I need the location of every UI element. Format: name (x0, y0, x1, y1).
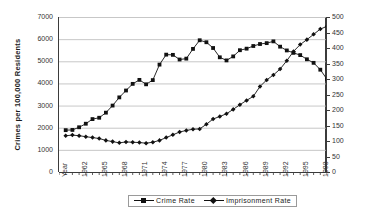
x-axis-tick-label: 1968 (121, 161, 128, 177)
x-axis-tick-label: Year (61, 163, 68, 177)
x-axis-tick-label: 1986 (242, 161, 249, 177)
legend-label-imprisonment-rate: Imprisonment Rate (226, 197, 291, 204)
x-axis-tick-label: 1980 (201, 161, 208, 177)
chart-container: Crimes per 100,000 Residents 70006000500… (0, 0, 383, 219)
legend-label-crime-rate: Crime Rate (156, 197, 195, 204)
x-axis-tick-label: 1995 (302, 161, 309, 177)
right-axis-tick (327, 79, 330, 80)
right-axis-tick (327, 126, 330, 127)
right-axis-tick (327, 95, 330, 96)
right-axis-tick (327, 48, 330, 49)
x-axis-tick-label: 1971 (141, 161, 148, 177)
line-square-marker-icon (134, 197, 154, 204)
x-axis-tick-label: 1992 (282, 161, 289, 177)
right-axis-tick (327, 17, 330, 18)
right-axis-tick (327, 157, 330, 158)
line-diamond-marker-icon (204, 197, 224, 204)
right-axis-tick (327, 141, 330, 142)
x-axis-tick-label: 1965 (101, 161, 108, 177)
x-axis-tick-label: 1989 (262, 161, 269, 177)
right-axis-tick (327, 33, 330, 34)
right-axis-tick (327, 110, 330, 111)
chart-legend: Crime Rate Imprisonment Rate (128, 195, 297, 207)
x-axis-tick-label: 1974 (161, 161, 168, 177)
x-axis-tick-label: 1983 (221, 161, 228, 177)
x-axis-tick-label: 1977 (181, 161, 188, 177)
legend-item-imprisonment-rate: Imprisonment Rate (204, 197, 291, 204)
right-axis-tick (327, 172, 330, 173)
right-axis-tick (327, 64, 330, 65)
legend-item-crime-rate: Crime Rate (134, 197, 195, 204)
x-axis-tick-label: 1962 (81, 161, 88, 177)
